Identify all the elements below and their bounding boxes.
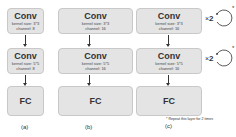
panel-b-fc-box: FC <box>58 86 133 116</box>
repeat-count: ×2 <box>205 14 214 23</box>
repeat-loop-icon <box>214 6 234 28</box>
repeat-number: 2 <box>209 54 213 63</box>
panel-b-caption: (b) <box>85 124 92 130</box>
channel-label: channel: 8 <box>8 26 43 31</box>
panel-a-conv1-box: Conv kernel size: 3*3 channel: 8 <box>7 8 44 34</box>
arrow-down-icon <box>25 75 26 84</box>
channel-label: channel: 16 <box>59 26 132 31</box>
panel-a-caption: (a) <box>21 124 28 130</box>
layer-title: Conv <box>59 11 132 21</box>
arrow-down-icon <box>89 75 90 84</box>
channel-label: channel: 16 <box>137 66 201 71</box>
panel-a-fc-box: FC <box>7 86 44 116</box>
panel-c-fc-box: FC <box>136 86 202 116</box>
arrow-down-icon <box>89 35 90 45</box>
repeat-number: 2 <box>209 14 213 23</box>
channel-label: channel: 16 <box>59 66 132 71</box>
layer-title: Conv <box>137 11 201 21</box>
repeat-star: * <box>232 5 234 11</box>
panel-c-conv1-box: Conv kernel size: 3*3 channel: 16 <box>136 8 202 34</box>
panel-b-conv1-box: Conv kernel size: 3*3 channel: 16 <box>58 8 133 34</box>
arrow-down-icon <box>168 75 169 84</box>
layer-title: FC <box>59 96 132 106</box>
panel-c-caption: (c) <box>165 123 172 129</box>
layer-title: Conv <box>8 51 43 61</box>
panel-a-conv2-box: Conv kernel size: 5*5 channel: 8 <box>7 48 44 74</box>
layer-title: FC <box>137 96 201 106</box>
layer-title: Conv <box>8 11 43 21</box>
layer-title: FC <box>8 96 43 106</box>
panel-b-conv2-box: Conv kernel size: 5*5 channel: 16 <box>58 48 133 74</box>
panel-c-conv2-box: Conv kernel size: 5*5 channel: 16 <box>136 48 202 74</box>
channel-label: channel: 8 <box>8 66 43 71</box>
arrow-down-icon <box>25 35 26 45</box>
layer-title: Conv <box>59 51 132 61</box>
repeat-loop-icon <box>214 46 234 68</box>
arrow-down-icon <box>168 35 169 45</box>
repeat-count: ×2 <box>205 54 214 63</box>
layer-title: Conv <box>137 51 201 61</box>
footnote: * Repeat this layer for 2 times <box>166 117 213 121</box>
channel-label: channel: 16 <box>137 26 201 31</box>
repeat-star: * <box>232 45 234 51</box>
